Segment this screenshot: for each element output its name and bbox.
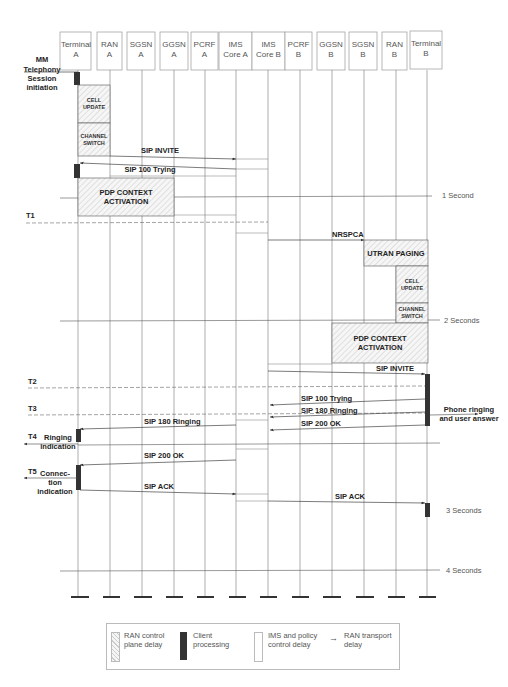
client-processing-bar-b: [425, 374, 430, 426]
ran-control-swatch: [111, 632, 120, 662]
svg-text:CHANNEL: CHANNEL: [81, 133, 109, 139]
marker-t2: T2: [28, 377, 425, 388]
svg-text:RAN: RAN: [386, 40, 403, 49]
svg-text:B: B: [360, 50, 365, 59]
svg-text:SGSN: SGSN: [352, 40, 375, 49]
entity-pcrf-b: PCRF B: [285, 32, 312, 70]
entity-headers: Terminal A RAN A SGSN A GGSN A PCRF A IM…: [60, 31, 442, 70]
svg-text:CELL: CELL: [405, 278, 420, 284]
entity-terminal-b: Terminal B: [410, 31, 442, 69]
svg-text:Phone ringing: Phone ringing: [444, 405, 495, 414]
entity-ggsn-a: GGSN A: [160, 32, 188, 70]
cell-update-b-block: CELL UPDATE: [396, 266, 428, 303]
msg-sip-200-b: SIP 200 OK: [270, 419, 425, 430]
svg-text:GGSN: GGSN: [162, 40, 186, 49]
svg-text:PDP CONTEXT: PDP CONTEXT: [99, 188, 153, 197]
svg-text:CELL: CELL: [87, 97, 102, 103]
svg-text:2 Seconds: 2 Seconds: [444, 316, 480, 325]
svg-text:tion: tion: [48, 478, 62, 487]
svg-text:Core A: Core A: [223, 50, 248, 59]
entity-sgsn-a: SGSN A: [127, 32, 155, 70]
svg-text:SWITCH: SWITCH: [83, 140, 105, 146]
svg-text:Terminal: Terminal: [61, 40, 91, 49]
svg-text:PDP CONTEXT: PDP CONTEXT: [353, 334, 407, 343]
entity-terminal-a: Terminal A: [60, 32, 91, 70]
channel-switch-a-block: CHANNEL SWITCH: [78, 123, 110, 156]
svg-text:SIP 180 Ringing: SIP 180 Ringing: [301, 406, 358, 415]
svg-text:RAN: RAN: [101, 40, 118, 49]
svg-text:A: A: [202, 50, 208, 59]
phone-ringing-note: Phone ringing and user answer: [430, 405, 499, 423]
svg-text:T5: T5: [28, 467, 37, 476]
svg-text:SIP 100 Trying: SIP 100 Trying: [124, 165, 176, 174]
svg-text:PCRF: PCRF: [194, 40, 216, 49]
sequence-diagram: Terminal A RAN A SGSN A GGSN A PCRF A IM…: [0, 0, 508, 687]
svg-text:SIP INVITE: SIP INVITE: [141, 146, 179, 155]
svg-text:UPDATE: UPDATE: [83, 104, 106, 110]
time-marker-3s: 3 Seconds: [446, 506, 482, 515]
entity-sgsn-b: SGSN B: [349, 32, 377, 70]
svg-text:initiation: initiation: [26, 83, 58, 92]
client-processing-bar: [76, 429, 81, 442]
legend-ran-transport: RAN transport delay: [344, 631, 392, 649]
arrow-icon: →: [329, 634, 338, 643]
marker-t5: T5 Connec- tion indication: [24, 467, 78, 496]
svg-text:B: B: [392, 50, 397, 59]
pdp-context-a-block: PDP CONTEXT ACTIVATION: [78, 178, 174, 216]
legend: RAN control plane delay Client processin…: [106, 623, 400, 670]
ims-policy-swatch: [254, 632, 263, 662]
channel-switch-b-block: CHANNEL SWITCH: [396, 303, 428, 323]
svg-text:ACTIVATION: ACTIVATION: [104, 197, 149, 206]
svg-text:SIP ACK: SIP ACK: [144, 482, 175, 491]
cell-update-a-block: CELL UPDATE: [78, 85, 110, 123]
client-processing-bar: [74, 72, 80, 85]
client-processing-bar: [76, 465, 81, 490]
entity-ran-b: RAN B: [382, 32, 407, 70]
pdp-context-b-block: PDP CONTEXT ACTIVATION: [332, 323, 428, 363]
svg-text:A: A: [73, 50, 79, 59]
msg-sip-invite-a: SIP INVITE: [110, 146, 268, 159]
svg-text:1 Second: 1 Second: [442, 191, 474, 200]
svg-text:indication: indication: [37, 487, 73, 496]
svg-text:CHANNEL: CHANNEL: [399, 306, 427, 312]
svg-text:T1: T1: [26, 211, 35, 220]
entity-ran-a: RAN A: [97, 32, 122, 70]
svg-text:GGSN: GGSN: [319, 40, 343, 49]
svg-text:B: B: [296, 50, 301, 59]
msg-sip-ack-a: SIP ACK: [80, 482, 268, 494]
client-processing-swatch: [180, 632, 187, 660]
svg-text:B: B: [328, 50, 333, 59]
svg-text:indication: indication: [40, 442, 76, 451]
svg-text:Terminal: Terminal: [411, 39, 441, 48]
svg-text:A: A: [171, 50, 177, 59]
svg-text:SIP 200 OK: SIP 200 OK: [144, 451, 184, 460]
svg-text:SIP 180 Ringing: SIP 180 Ringing: [144, 417, 201, 426]
svg-text:SIP 200 OK: SIP 200 OK: [301, 419, 341, 428]
svg-text:UPDATE: UPDATE: [401, 285, 424, 291]
svg-text:T2: T2: [28, 377, 37, 386]
svg-text:MM: MM: [36, 55, 49, 64]
entity-pcrf-a: PCRF A: [191, 32, 218, 70]
entity-ims-core-b: IMS Core B: [252, 32, 285, 70]
svg-text:4 Seconds: 4 Seconds: [446, 566, 482, 575]
svg-text:T3: T3: [28, 404, 37, 413]
marker-t3: T3: [28, 404, 425, 415]
svg-text:SGSN: SGSN: [130, 40, 153, 49]
marker-t4: T4 Ringing indication: [24, 432, 78, 451]
msg-sip-invite-b: SIP INVITE: [268, 364, 425, 374]
svg-text:SWITCH: SWITCH: [401, 313, 423, 319]
svg-text:Connec-: Connec-: [40, 469, 71, 478]
svg-text:Session: Session: [28, 74, 57, 83]
legend-ran-control: RAN control plane delay: [124, 631, 164, 649]
msg-sip-200-a: SIP 200 OK: [80, 451, 236, 465]
svg-text:B: B: [423, 49, 428, 58]
svg-text:IMS: IMS: [261, 40, 275, 49]
svg-text:SIP ACK: SIP ACK: [335, 492, 366, 501]
svg-text:Core B: Core B: [256, 50, 281, 59]
svg-text:PCRF: PCRF: [288, 40, 310, 49]
client-processing-bar: [74, 164, 80, 178]
svg-text:ACTIVATION: ACTIVATION: [358, 343, 403, 352]
svg-text:IMS: IMS: [228, 40, 242, 49]
msg-sip-ack-b: SIP ACK: [236, 492, 425, 503]
legend-client-processing: Client processing: [193, 631, 229, 649]
